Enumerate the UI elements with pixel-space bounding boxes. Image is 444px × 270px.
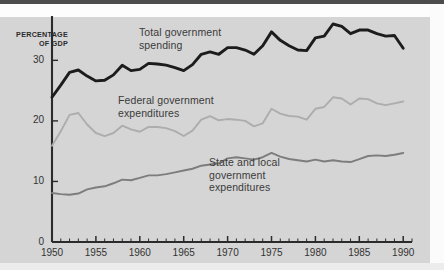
series-line-1 [52,97,403,145]
x-tick-label-1955: 1955 [74,247,118,258]
y-tick-label-0: 0 [14,236,44,247]
annotation-federal-government-expenditures: Federal government expenditures [118,94,214,119]
x-tick-label-1990: 1990 [381,247,425,258]
x-tick-label-1970: 1970 [206,247,250,258]
y-axis-unit-label: PERCENTAGE OF GDP [6,30,68,48]
y-tick-label-20: 20 [14,114,44,125]
x-tick-label-1980: 1980 [293,247,337,258]
annotation-state-and-local-government-expenditures: State and local government expenditures [209,156,280,194]
annotation-total-government-spending: Total government spending [139,26,221,51]
x-tick-label-1960: 1960 [118,247,162,258]
y-tick-label-10: 10 [14,175,44,186]
series-line-0 [52,24,403,97]
x-tick-label-1975: 1975 [250,247,294,258]
x-tick-label-1950: 1950 [30,247,74,258]
y-tick-label-30: 30 [14,54,44,65]
figure-container: PERCENTAGE OF GDP 0102030 19501955196019… [0,0,444,270]
x-tick-label-1985: 1985 [337,247,381,258]
x-tick-label-1965: 1965 [162,247,206,258]
axes-group [52,16,412,242]
